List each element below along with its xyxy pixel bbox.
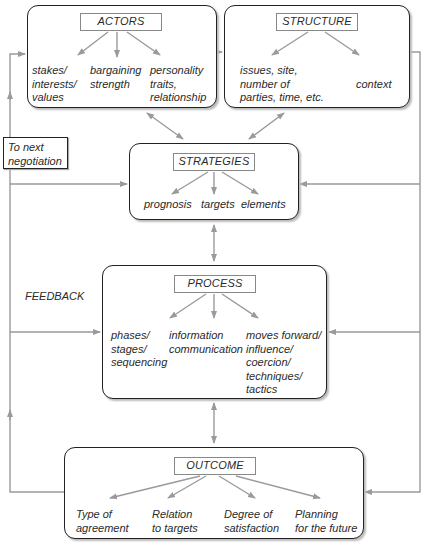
inner-arrows xyxy=(0,0,423,544)
